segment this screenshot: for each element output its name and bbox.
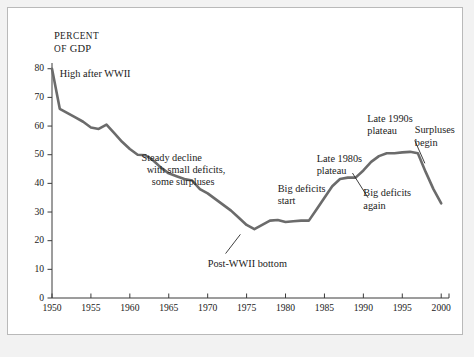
- annotation-surpluses-begin: Surpluses begin: [415, 124, 455, 149]
- leader-line-post-wwii-bottom: [226, 234, 241, 253]
- y-axis-tick-label: 70: [8, 91, 44, 102]
- y-axis-tick-label: 80: [8, 62, 44, 73]
- y-axis-tick-label: 0: [8, 292, 44, 303]
- y-axis-tick-label: 40: [8, 177, 44, 188]
- annotation-high-after-wwii: High after WWII: [60, 68, 131, 80]
- figure-caption-fragment: [0, 345, 474, 357]
- y-axis-tick-label: 60: [8, 120, 44, 131]
- y-axis-title-line2: OF GDP: [54, 43, 91, 54]
- y-axis-tick-label: 20: [8, 234, 44, 245]
- annotation-big-deficits-again: Big deficits again: [363, 187, 411, 212]
- annotation-big-deficits-start: Big deficits start: [278, 183, 326, 208]
- y-axis-title: PERCENTOF GDP: [54, 30, 99, 55]
- annotation-post-wwii-bottom: Post-WWII bottom: [208, 258, 287, 270]
- y-axis-tick-label: 50: [8, 148, 44, 159]
- figure-panel: PERCENTOF GDP 01020304050607080195019551…: [7, 7, 463, 335]
- line-chart: [8, 8, 463, 335]
- x-axis-tick-label: 2000: [417, 302, 463, 313]
- y-axis-tick-label: 10: [8, 263, 44, 274]
- annotation-late-1980s-plateau: Late 1980s plateau: [317, 153, 362, 178]
- annotation-steady-decline: Steady decline with small deficits, some…: [142, 152, 226, 189]
- annotation-late-1990s-plateau: Late 1990s plateau: [367, 113, 412, 138]
- y-axis-tick-label: 30: [8, 206, 44, 217]
- y-axis-title-line1: PERCENT: [54, 30, 99, 41]
